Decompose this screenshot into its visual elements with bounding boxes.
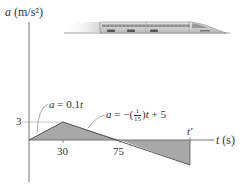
y-tick-3: 3 (16, 116, 22, 127)
eq2-den: 15 (134, 116, 141, 123)
x-tick-75: 75 (113, 146, 124, 157)
equation-1: a = 0.1t (49, 99, 83, 110)
x-tick-tprime: t′ (187, 126, 192, 137)
y-axis-label: a (m/s²) (5, 6, 43, 18)
train-icon (64, 22, 230, 33)
eq1-var: t (80, 98, 83, 110)
eq2-tail: + 5 (149, 108, 166, 120)
y-axis-unit: (m/s²) (14, 5, 43, 19)
eq1-leader (37, 104, 48, 133)
eq2-fraction: 115 (134, 108, 141, 123)
eq2-leader (88, 115, 105, 128)
eq1-lhs: a (49, 98, 55, 110)
x-axis-var: t (216, 133, 219, 147)
x-axis-unit: (s) (222, 133, 235, 147)
y-axis-var: a (5, 5, 11, 19)
eq2-lhs: a (106, 108, 112, 120)
acceleration-time-diagram (0, 0, 244, 193)
x-tick-30: 30 (57, 146, 68, 157)
x-axis-label: t (s) (216, 134, 235, 146)
equation-2: a = −(115)t + 5 (106, 108, 166, 123)
eq1-rhs: = 0.1 (57, 98, 80, 110)
positive-area (29, 122, 120, 140)
eq2-mid: = −( (114, 108, 133, 120)
